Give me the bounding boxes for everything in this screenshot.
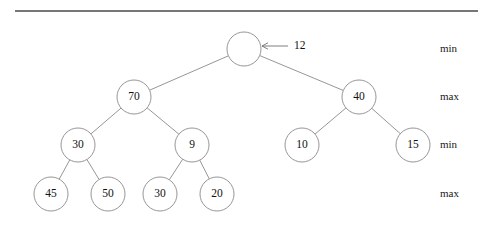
insert-pointer-group: 12 xyxy=(262,39,306,51)
tree-node-n30b: 30 xyxy=(143,177,177,211)
tree-edge-n9-to-n30b xyxy=(169,159,182,180)
tree-edge-n70-to-n9 xyxy=(147,108,179,134)
node-value-n9: 9 xyxy=(189,138,195,150)
tree-node-n9: 9 xyxy=(175,128,209,162)
binary-tree-figure: 12 7040309101545503020 minmaxminmax xyxy=(0,0,495,235)
node-value-n30a: 30 xyxy=(72,138,84,150)
node-value-n45: 45 xyxy=(45,187,57,199)
tree-edge-root-to-n40 xyxy=(260,56,344,91)
node-value-n70: 70 xyxy=(128,90,140,102)
tree-node-n20: 20 xyxy=(200,177,234,211)
tree-edge-n40-to-n10 xyxy=(315,108,346,134)
level-label-2-min: min xyxy=(440,138,458,150)
node-value-n15: 15 xyxy=(407,138,419,150)
level-label-1-max: max xyxy=(440,90,459,102)
node-value-n30b: 30 xyxy=(154,187,166,199)
tree-edges-group xyxy=(59,56,400,180)
tree-node-n70: 70 xyxy=(117,80,151,114)
tree-node-n15: 15 xyxy=(396,128,430,162)
node-value-n20: 20 xyxy=(211,187,223,199)
tree-node-n10: 10 xyxy=(285,128,319,162)
tree-edge-root-to-n70 xyxy=(150,56,229,90)
tree-node-n30a: 30 xyxy=(61,128,95,162)
tree-node-root xyxy=(227,32,261,66)
level-label-0-min: min xyxy=(440,42,458,54)
insert-value-label: 12 xyxy=(294,39,306,51)
tree-node-n45: 45 xyxy=(34,177,68,211)
node-circle-root xyxy=(227,32,261,66)
level-label-3-max: max xyxy=(440,187,459,199)
tree-nodes-group: 7040309101545503020 xyxy=(34,32,430,211)
level-labels-group: minmaxminmax xyxy=(440,42,459,199)
tree-edge-n30a-to-n50 xyxy=(87,159,99,179)
node-value-n50: 50 xyxy=(102,187,114,199)
tree-node-n50: 50 xyxy=(91,177,125,211)
tree-edge-n70-to-n30a xyxy=(91,108,121,134)
tree-diagram-canvas: 12 7040309101545503020 minmaxminmax xyxy=(0,0,495,235)
node-value-n40: 40 xyxy=(353,90,365,102)
tree-edge-n9-to-n20 xyxy=(200,160,210,179)
tree-edge-n30a-to-n45 xyxy=(59,160,70,179)
tree-edge-n40-to-n15 xyxy=(372,108,401,133)
node-value-n10: 10 xyxy=(296,138,308,150)
tree-node-n40: 40 xyxy=(342,80,376,114)
